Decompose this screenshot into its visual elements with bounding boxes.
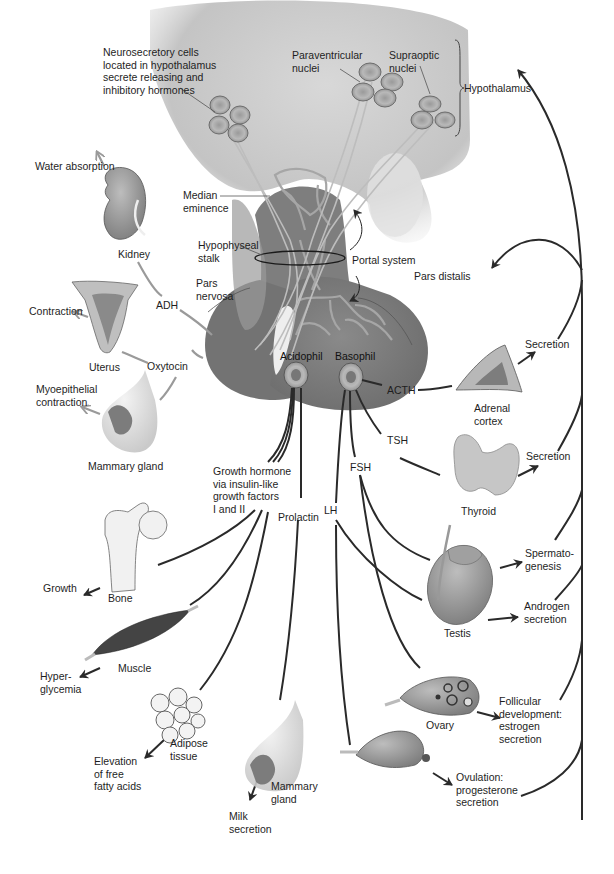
- label-mammary-gland-upper: Mammary gland: [88, 460, 163, 473]
- kidney-illustration: [104, 167, 146, 239]
- label-basophil: Basophil: [335, 350, 375, 363]
- label-follicular-development: Follicular development: estrogen secreti…: [499, 695, 562, 745]
- basophil-cell: [339, 363, 363, 391]
- label-milk-secretion: Milk secretion: [229, 810, 272, 835]
- label-contraction: Contraction: [29, 305, 83, 318]
- label-supraoptic-nuclei: Supraoptic nuclei: [389, 49, 439, 74]
- adrenal-cortex-illustration: [456, 345, 522, 392]
- label-acidophil: Acidophil: [280, 350, 323, 363]
- bone-illustration: [105, 503, 167, 592]
- label-lh: LH: [324, 504, 337, 517]
- label-oxytocin: Oxytocin: [147, 360, 188, 373]
- label-fsh: FSH: [350, 461, 371, 474]
- label-portal-system: Portal system: [352, 254, 416, 267]
- label-uterus: Uterus: [89, 361, 120, 374]
- adipose-tissue-illustration: [151, 688, 205, 743]
- label-thyroid-secretion: Secretion: [526, 450, 570, 463]
- label-median-eminence: Median eminence: [183, 189, 229, 214]
- label-spermatogenesis: Spermato- genesis: [525, 547, 574, 572]
- testis-illustration: [419, 525, 502, 632]
- ovary-ovulating-illustration: [340, 731, 430, 767]
- label-paraventricular-nuclei: Paraventricular nuclei: [292, 49, 363, 74]
- label-bone-growth: Growth: [43, 582, 77, 595]
- portal-arrow-up: [350, 210, 362, 250]
- label-neurosecretory-cells: Neurosecretory cells located in hypothal…: [103, 46, 216, 96]
- label-acth: ACTH: [387, 384, 416, 397]
- label-adrenal-cortex: Adrenal cortex: [474, 402, 510, 427]
- label-myoepithelial-contraction: Myoepithelial contraction: [36, 383, 97, 408]
- label-hypophyseal-stalk: Hypophyseal stalk: [198, 239, 259, 264]
- label-pars-nervosa: Pars nervosa: [196, 277, 233, 302]
- label-mammary-gland-lower: Mammary gland: [271, 780, 318, 805]
- label-muscle: Muscle: [118, 662, 151, 675]
- acidophil-cell: [284, 362, 308, 388]
- mammary-gland-lower-illustration: [245, 700, 303, 791]
- ovary-follicular-illustration: [385, 677, 479, 715]
- mammary-gland-upper-illustration: [102, 370, 158, 452]
- label-ovary: Ovary: [426, 719, 454, 732]
- label-bone: Bone: [108, 592, 133, 605]
- muscle-illustration: [85, 606, 198, 660]
- label-adh: ADH: [156, 299, 178, 312]
- label-growth-hormone: Growth hormone via insulin-like growth f…: [213, 465, 291, 515]
- label-pars-distalis: Pars distalis: [414, 270, 471, 283]
- label-testis: Testis: [444, 627, 471, 640]
- label-hyperglycemia: Hyper- glycemia: [40, 670, 81, 695]
- label-adipose-tissue: Adipose tissue: [170, 737, 208, 762]
- label-elevation-fatty-acids: Elevation of free fatty acids: [94, 755, 141, 793]
- label-adrenal-secretion: Secretion: [525, 338, 569, 351]
- label-androgen-secretion: Androgen secretion: [524, 600, 570, 625]
- label-hypothalamus: Hypothalamus: [464, 82, 531, 95]
- label-water-absorption: Water absorption: [35, 160, 115, 173]
- thyroid-illustration: [454, 435, 519, 495]
- label-kidney: Kidney: [118, 248, 150, 261]
- label-tsh: TSH: [387, 434, 408, 447]
- label-thyroid: Thyroid: [461, 505, 496, 518]
- label-ovulation: Ovulation: progesterone secretion: [456, 771, 518, 809]
